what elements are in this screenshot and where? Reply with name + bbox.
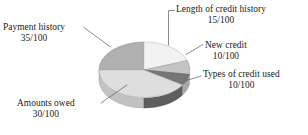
pie-chart: Length of credit history 15/100 New cred… <box>0 0 308 135</box>
callout-amounts-owed-title: Amounts owed <box>17 98 75 108</box>
pie-top-face <box>99 42 190 98</box>
callout-payment-history-value: 35/100 <box>3 33 65 44</box>
callout-length-of-credit-history: Length of credit history 15/100 <box>176 4 266 27</box>
leader-line-payment-history <box>84 28 111 48</box>
leader-line-length-of-credit-history <box>169 11 175 46</box>
callout-payment-history: Payment history 35/100 <box>3 22 65 45</box>
callout-length-of-credit-history-value: 15/100 <box>176 15 266 26</box>
callout-new-credit-value: 10/100 <box>205 51 247 62</box>
callout-amounts-owed: Amounts owed 30/100 <box>17 98 75 121</box>
callout-types-of-credit-used: Types of credit used 10/100 <box>203 69 280 92</box>
callout-new-credit: New credit 10/100 <box>205 40 247 63</box>
callout-types-of-credit-used-value: 10/100 <box>203 80 280 91</box>
callout-types-of-credit-used-title: Types of credit used <box>203 69 280 79</box>
pie-slice-payment-history <box>99 42 144 70</box>
callout-payment-history-title: Payment history <box>3 22 65 32</box>
callout-length-of-credit-history-title: Length of credit history <box>176 4 266 14</box>
callout-new-credit-title: New credit <box>205 40 247 50</box>
leader-line-new-credit <box>186 45 203 55</box>
callout-amounts-owed-value: 30/100 <box>17 109 75 120</box>
